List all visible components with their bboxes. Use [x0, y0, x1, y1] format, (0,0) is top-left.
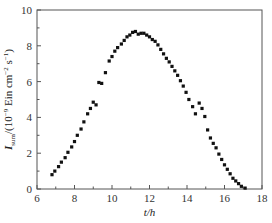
- data-point: [92, 101, 95, 104]
- data-point: [234, 179, 237, 182]
- x-axis-title: t/h: [144, 206, 156, 218]
- data-point: [64, 156, 67, 159]
- data-point: [212, 142, 215, 145]
- y-axis-ticks: 0246810: [21, 4, 41, 195]
- y-tick-label: 2: [27, 147, 33, 159]
- data-point: [139, 32, 142, 35]
- data-point: [97, 81, 100, 84]
- data-point: [50, 173, 53, 176]
- y-tick-label: 0: [27, 183, 33, 195]
- data-point: [182, 84, 185, 87]
- data-point: [125, 35, 128, 38]
- data-point: [73, 140, 76, 143]
- data-point: [209, 136, 212, 139]
- data-point: [226, 168, 229, 171]
- data-point: [116, 46, 119, 49]
- x-tick-label: 12: [144, 192, 155, 204]
- data-point: [229, 172, 232, 175]
- data-point: [223, 163, 226, 166]
- data-point: [123, 39, 126, 42]
- data-point: [173, 69, 176, 72]
- data-point: [217, 152, 220, 155]
- data-point: [165, 57, 168, 60]
- data-point: [231, 177, 234, 180]
- data-point: [168, 60, 171, 63]
- data-point: [179, 79, 182, 82]
- data-point: [137, 33, 140, 36]
- data-point: [110, 55, 113, 58]
- data-point: [145, 33, 148, 36]
- y-tick-label: 10: [21, 4, 33, 16]
- data-point: [159, 48, 162, 51]
- data-point: [162, 52, 165, 55]
- data-point: [240, 185, 243, 188]
- x-axis-ticks: 681012141618: [34, 185, 268, 204]
- data-point: [244, 187, 247, 190]
- data-point: [148, 35, 151, 38]
- data-point: [120, 42, 123, 45]
- data-point: [151, 38, 154, 41]
- data-point: [70, 145, 73, 148]
- x-tick-label: 16: [219, 192, 231, 204]
- data-point: [176, 74, 179, 77]
- data-point: [198, 101, 201, 104]
- data-point: [131, 31, 134, 34]
- data-point: [53, 170, 56, 173]
- y-tick-label: 6: [27, 76, 33, 88]
- data-point: [60, 161, 63, 164]
- data-point: [108, 59, 111, 62]
- data-point: [194, 112, 197, 115]
- data-point: [134, 30, 137, 33]
- data-point: [100, 82, 103, 85]
- data-point: [82, 120, 85, 123]
- y-tick-label: 8: [27, 40, 33, 52]
- chart: 681012141618 0246810 t/h Isum/(10−9 Ein …: [0, 0, 272, 223]
- data-point: [154, 40, 157, 43]
- data-point: [184, 91, 187, 94]
- data-point: [128, 33, 131, 36]
- data-point: [104, 71, 107, 74]
- data-point: [200, 107, 203, 110]
- data-point: [191, 105, 194, 108]
- data-point: [79, 127, 82, 130]
- data-point: [89, 107, 92, 110]
- data-point: [94, 103, 97, 106]
- data-point: [214, 146, 217, 149]
- data-point: [113, 50, 116, 53]
- data-point: [206, 128, 209, 131]
- y-axis-title: Isum/(10−9 Ein cm−2 s−1): [2, 49, 17, 151]
- data-point: [237, 182, 240, 185]
- x-tick-label: 6: [34, 192, 40, 204]
- data-point: [142, 32, 145, 35]
- data-point: [86, 112, 89, 115]
- y-tick-label: 4: [27, 111, 33, 123]
- x-tick-label: 10: [107, 192, 119, 204]
- data-point: [156, 43, 159, 46]
- data-point: [66, 151, 69, 154]
- data-point: [220, 158, 223, 161]
- data-point: [76, 134, 79, 137]
- data-points: [50, 30, 246, 190]
- x-tick-label: 18: [257, 192, 269, 204]
- data-point: [170, 65, 173, 68]
- x-tick-label: 8: [72, 192, 78, 204]
- data-point: [57, 165, 60, 168]
- data-point: [203, 115, 206, 118]
- data-point: [187, 98, 190, 101]
- x-tick-label: 14: [182, 192, 194, 204]
